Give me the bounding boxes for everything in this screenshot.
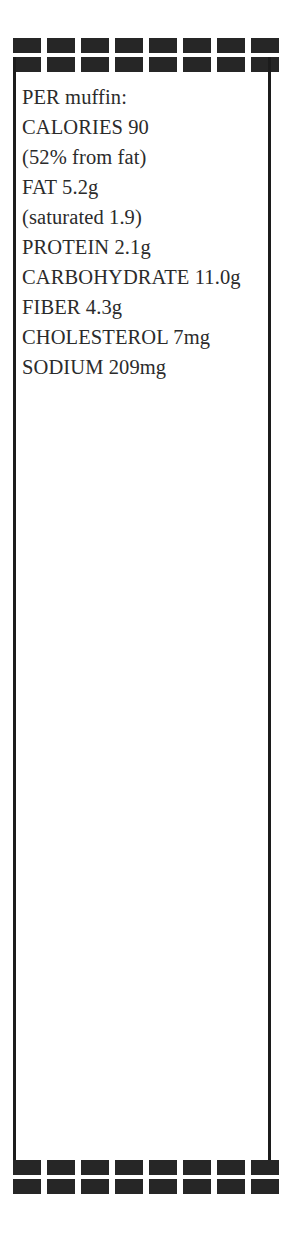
nutrition-fact-line: CHOLESTEROL 7mg bbox=[22, 322, 266, 352]
dash-row-upper bbox=[0, 38, 299, 53]
border-dash bbox=[217, 1179, 245, 1194]
nutrition-fact-line: FIBER 4.3g bbox=[22, 292, 266, 322]
border-dash bbox=[115, 38, 143, 53]
border-dash bbox=[251, 57, 279, 72]
dash-row-upper bbox=[0, 1160, 299, 1175]
border-dash bbox=[13, 1160, 41, 1175]
bottom-dash-border bbox=[0, 1160, 299, 1194]
nutrition-fact-line: FAT 5.2g bbox=[22, 172, 266, 202]
border-dash bbox=[149, 57, 177, 72]
nutrition-fact-line: PROTEIN 2.1g bbox=[22, 232, 266, 262]
border-dash bbox=[251, 1160, 279, 1175]
frame-rule-right bbox=[268, 57, 271, 1164]
border-dash bbox=[13, 57, 41, 72]
border-dash bbox=[81, 1160, 109, 1175]
border-dash bbox=[217, 57, 245, 72]
border-dash bbox=[217, 1160, 245, 1175]
nutrition-fact-line: (saturated 1.9) bbox=[22, 202, 266, 232]
nutrition-heading: PER muffin: bbox=[22, 82, 266, 112]
border-dash bbox=[149, 1179, 177, 1194]
border-dash bbox=[251, 38, 279, 53]
border-dash bbox=[115, 1179, 143, 1194]
nutrition-fact-line: CALORIES 90 bbox=[22, 112, 266, 142]
border-dash bbox=[183, 57, 211, 72]
border-dash bbox=[81, 57, 109, 72]
border-dash bbox=[183, 1160, 211, 1175]
border-dash bbox=[183, 1179, 211, 1194]
frame-rule-left bbox=[13, 57, 16, 1164]
border-dash bbox=[217, 38, 245, 53]
dash-row-lower bbox=[0, 1179, 299, 1194]
border-dash bbox=[251, 1179, 279, 1194]
dash-row-lower bbox=[0, 57, 299, 72]
border-dash bbox=[81, 38, 109, 53]
border-dash bbox=[115, 1160, 143, 1175]
border-dash bbox=[47, 1179, 75, 1194]
border-dash bbox=[149, 38, 177, 53]
border-dash bbox=[13, 38, 41, 53]
border-dash bbox=[47, 1160, 75, 1175]
nutrition-sidebar-page: PER muffin:CALORIES 90(52% from fat)FAT … bbox=[0, 0, 299, 1247]
nutrition-fact-line: (52% from fat) bbox=[22, 142, 266, 172]
border-dash bbox=[13, 1179, 41, 1194]
border-dash bbox=[183, 38, 211, 53]
border-dash bbox=[47, 57, 75, 72]
nutrition-fact-line: CARBOHYDRATE 11.0g bbox=[22, 262, 266, 292]
border-dash bbox=[47, 38, 75, 53]
border-dash bbox=[149, 1160, 177, 1175]
nutrition-fact-line: SODIUM 209mg bbox=[22, 352, 266, 382]
top-dash-border bbox=[0, 38, 299, 72]
nutrition-fact-list: PER muffin:CALORIES 90(52% from fat)FAT … bbox=[22, 82, 266, 382]
border-dash bbox=[81, 1179, 109, 1194]
border-dash bbox=[115, 57, 143, 72]
